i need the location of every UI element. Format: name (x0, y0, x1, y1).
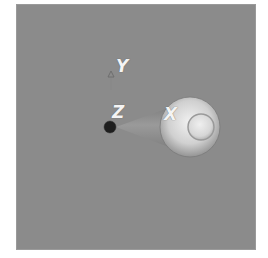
z-axis-dot-icon[interactable] (104, 121, 116, 133)
x-axis-label: X (164, 106, 177, 123)
axis-gizmo[interactable] (16, 4, 256, 250)
y-axis-handle-icon[interactable] (108, 71, 114, 90)
3d-viewport[interactable]: Y Z X (16, 4, 256, 250)
z-axis-label: Z (112, 104, 124, 121)
y-axis-label: Y (116, 58, 128, 75)
